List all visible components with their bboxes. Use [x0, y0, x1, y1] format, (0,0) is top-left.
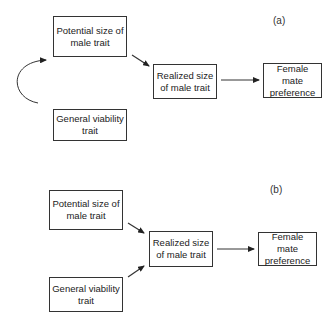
node-potential-size-b: Potential size of male trait	[49, 190, 123, 230]
node-text: trait	[56, 125, 124, 137]
curved-arrow-viability-to-potential	[17, 60, 46, 103]
node-realized-size-b: Realized size of male trait	[149, 231, 213, 267]
node-text: Potential size of	[52, 198, 119, 210]
arrow-potential-to-realized-b	[128, 223, 144, 233]
arrow-viability-to-realized-b	[128, 266, 144, 277]
node-text: Realized size	[157, 70, 214, 82]
node-text: male trait	[56, 37, 123, 49]
node-female-preference-a: Female mate preference	[263, 63, 322, 98]
node-text: of male trait	[153, 249, 210, 261]
node-text: General viability	[52, 283, 120, 295]
panel-label-b: (b)	[270, 184, 282, 195]
node-text: of male trait	[157, 82, 214, 94]
node-text: Female mate	[261, 231, 314, 255]
node-text: General viability	[56, 113, 124, 125]
node-female-preference-b: Female mate preference	[258, 232, 317, 266]
node-general-viability-b: General viability trait	[49, 277, 123, 312]
node-text: preference	[266, 87, 319, 99]
node-text: trait	[52, 295, 120, 307]
node-realized-size-a: Realized size of male trait	[153, 64, 217, 99]
arrow-potential-to-realized-a	[132, 55, 149, 66]
panel-label-a: (a)	[273, 15, 285, 26]
node-general-viability-a: General viability trait	[53, 109, 127, 141]
node-potential-size-a: Potential size of male trait	[53, 16, 127, 57]
node-text: Female mate	[266, 63, 319, 87]
node-text: Realized size	[153, 237, 210, 249]
connector-layer	[0, 0, 336, 319]
node-text: Potential size of	[56, 25, 123, 37]
node-text: male trait	[52, 210, 119, 222]
node-text: preference	[261, 255, 314, 267]
